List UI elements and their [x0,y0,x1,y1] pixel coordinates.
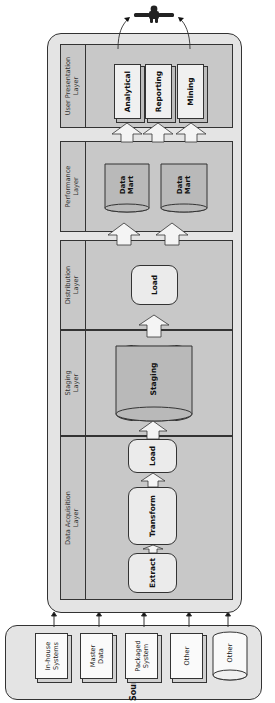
diagram-stage: Sources In-houseSystems MasterData Packa… [0,0,275,703]
flow-arrows [0,0,275,703]
end-user-person-icon [128,5,180,23]
